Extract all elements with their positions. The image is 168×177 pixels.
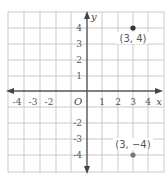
- y-tick--4: -4: [73, 150, 82, 160]
- x-tick-4: 4: [145, 97, 151, 107]
- x-tick-3: 3: [130, 97, 136, 107]
- x-tick-1: 1: [99, 97, 105, 107]
- y-tick-4: 4: [76, 23, 82, 33]
- point-3-4: [130, 25, 135, 30]
- x-axis-left-arrow-icon: [6, 88, 14, 94]
- x-tick--3: -3: [29, 97, 38, 107]
- y-tick--2: -2: [73, 118, 82, 128]
- x-tick--4: -4: [13, 97, 22, 107]
- y-axis-label: y: [90, 11, 97, 22]
- x-tick--2: -2: [45, 97, 54, 107]
- y-tick-2: 2: [76, 55, 82, 65]
- y-tick-3: 3: [76, 39, 82, 49]
- point-label-3-4: (3, 4): [120, 33, 147, 44]
- x-axis-label: x: [156, 96, 162, 107]
- x-tick-2: 2: [115, 97, 121, 107]
- point-label-3-neg4: (3, −4): [115, 139, 150, 150]
- origin-label: O: [74, 96, 82, 107]
- y-tick--3: -3: [73, 134, 82, 144]
- y-axis: [84, 11, 90, 174]
- x-axis: [6, 88, 163, 94]
- x-axis-right-arrow-icon: [155, 88, 163, 94]
- coordinate-plane: -4 -3 -2 O 1 2 3 4 x 4 3 2 1 -2 -3 -4 y …: [0, 0, 168, 177]
- y-axis-down-arrow-icon: [84, 166, 90, 174]
- y-tick-1: 1: [76, 71, 82, 81]
- point-3-neg4: [130, 152, 135, 157]
